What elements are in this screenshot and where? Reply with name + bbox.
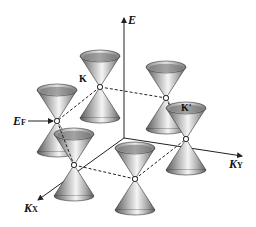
kx-axis-label-main: K: [24, 201, 32, 215]
fermi-level-label: EF: [13, 115, 26, 127]
k-point-label: K: [79, 74, 87, 84]
ky-axis-label: KY: [229, 158, 243, 170]
kx-axis-label: KX: [24, 202, 38, 214]
ky-axis-label-sub: Y: [237, 161, 243, 170]
dirac-cone-diagram: E K K' EF KX KY: [0, 0, 256, 227]
ky-axis-label-main: K: [229, 157, 237, 171]
kx-axis-label-sub: X: [32, 205, 38, 214]
fermi-level-label-sub: F: [21, 118, 26, 127]
fermi-level-label-main: E: [13, 114, 21, 128]
k-prime-point-label: K': [181, 103, 192, 113]
energy-axis-label: E: [128, 14, 136, 26]
diagram-canvas: [0, 0, 256, 227]
